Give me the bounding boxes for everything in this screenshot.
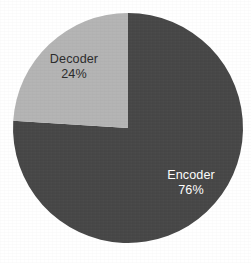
pie-label-encoder-name: Encoder — [142, 168, 240, 183]
pie-label-decoder-name: Decoder — [22, 52, 126, 67]
pie-chart-canvas — [0, 0, 251, 263]
pie-label-decoder-value: 24% — [22, 67, 126, 82]
pie-label-encoder: Encoder 76% — [142, 168, 240, 199]
pie-chart-figure: Decoder 24% Encoder 76% — [0, 0, 251, 263]
pie-label-decoder: Decoder 24% — [22, 52, 126, 83]
pie-label-encoder-value: 76% — [142, 183, 240, 198]
